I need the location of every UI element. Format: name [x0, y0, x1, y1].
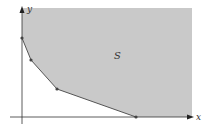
vertex-point: [134, 115, 137, 118]
y-axis-label: y: [26, 4, 33, 14]
vertex-point: [29, 58, 32, 61]
vertex-point: [55, 87, 58, 90]
region-label: S: [114, 50, 121, 61]
region-s: [22, 8, 192, 117]
feasible-region-diagram: S x y: [0, 0, 208, 127]
vertex-point: [20, 36, 23, 39]
x-axis-label: x: [196, 112, 201, 122]
